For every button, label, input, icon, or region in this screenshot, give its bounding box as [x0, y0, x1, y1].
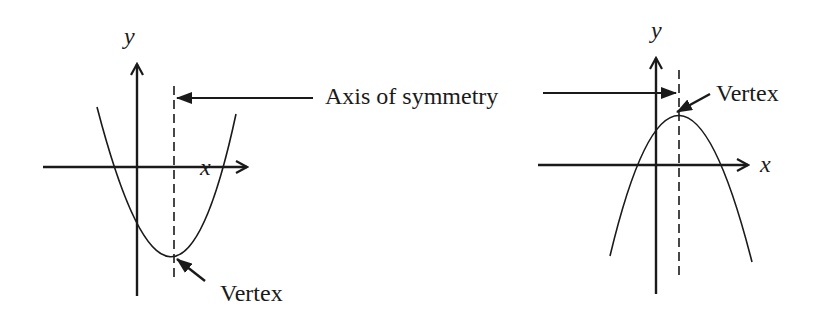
right-graph: y x Vertex: [538, 17, 779, 294]
right-y-axis-label: y: [649, 17, 662, 43]
right-downward-parabola: [610, 115, 752, 262]
right-vertex-label: Vertex: [716, 80, 779, 106]
left-upward-parabola: [97, 107, 236, 257]
right-x-axis-label: x: [759, 151, 771, 177]
axis-of-symmetry-label: Axis of symmetry: [325, 83, 498, 109]
right-vertex-arrow: [677, 94, 710, 112]
left-vertex-arrow: [177, 259, 205, 281]
left-y-axis-label: y: [122, 23, 135, 49]
left-vertex-label: Vertex: [220, 280, 283, 306]
left-x-axis-label: x: [199, 154, 211, 180]
parabola-diagram: y x Vertex Axis of symmetry y x Vertex: [0, 0, 831, 316]
left-graph: y x Vertex: [43, 23, 313, 306]
